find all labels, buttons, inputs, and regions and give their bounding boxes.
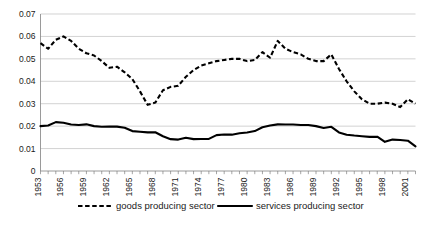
y-tick-label: 0.06 (19, 31, 36, 41)
y-tick-label: 0.05 (19, 54, 36, 64)
x-tick-label: 2001 (400, 177, 410, 196)
x-tick-label: 1995 (354, 177, 364, 196)
legend-label: services producing sector (256, 200, 364, 211)
x-tick-label: 1986 (285, 177, 295, 196)
chart-canvas: 00.010.020.030.040.050.060.07 1953195619… (0, 0, 421, 225)
x-tick-label: 1971 (170, 177, 180, 196)
y-tick-label: 0.02 (19, 121, 36, 131)
x-tick-label: 1974 (193, 177, 203, 196)
x-axis-tick-labels: 1953195619591962196519681971197419771980… (33, 177, 410, 196)
y-tick-label: 0 (31, 166, 36, 176)
data-series (41, 36, 416, 146)
x-tick-label: 1989 (308, 177, 318, 196)
x-axis (41, 14, 416, 174)
x-tick-label: 1959 (78, 177, 88, 196)
x-tick-label: 1968 (147, 177, 157, 196)
y-tick-label: 0.01 (19, 144, 36, 154)
x-tick-label: 1965 (124, 177, 134, 196)
x-tick-label: 1962 (101, 177, 111, 196)
x-tick-label: 1956 (55, 177, 65, 196)
series-line-solid (41, 122, 416, 146)
y-axis-tick-labels: 00.010.020.030.040.050.060.07 (19, 9, 36, 176)
y-tick-label: 0.03 (19, 99, 36, 109)
series-line-dashed (41, 36, 416, 107)
legend-label: goods producing sector (116, 200, 215, 211)
x-tick-label: 1998 (377, 177, 387, 196)
line-chart: 00.010.020.030.040.050.060.07 1953195619… (0, 0, 421, 225)
y-tick-label: 0.07 (19, 9, 36, 19)
x-tick-label: 1980 (239, 177, 249, 196)
x-tick-label: 1992 (331, 177, 341, 196)
chart-legend: goods producing sectorservices producing… (78, 200, 364, 211)
gridlines (41, 14, 416, 149)
x-tick-label: 1977 (216, 177, 226, 196)
y-tick-label: 0.04 (19, 76, 36, 86)
x-tick-label: 1953 (33, 177, 43, 196)
x-tick-label: 1983 (262, 177, 272, 196)
